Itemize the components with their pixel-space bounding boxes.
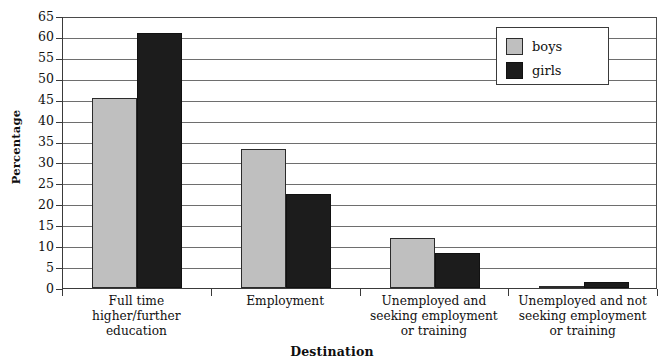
x-axis-category-label: Unemployed and notseeking employmentor t… xyxy=(500,294,664,339)
y-axis-tick-label: 50 xyxy=(14,73,54,86)
chart-title-remnant xyxy=(0,0,664,6)
legend-item-girls: girls xyxy=(506,58,608,82)
category-label-line: education xyxy=(54,324,219,339)
legend-swatch-girls xyxy=(506,62,523,79)
bar-girls-2 xyxy=(286,194,331,288)
y-axis-tick-label: 0 xyxy=(14,283,54,296)
bar-boys-4 xyxy=(539,286,584,289)
legend-label-boys: boys xyxy=(532,40,562,53)
legend-swatch-boys xyxy=(506,38,523,55)
y-axis-tick-label: 5 xyxy=(14,262,54,275)
y-axis-tick-label: 10 xyxy=(14,241,54,254)
y-axis-tick-label: 20 xyxy=(14,199,54,212)
category-label-line: higher/further xyxy=(54,309,219,324)
category-label-line: seeking employment xyxy=(352,309,517,324)
category-label-line: or training xyxy=(352,324,517,339)
category-label-line: Unemployed and xyxy=(352,294,517,309)
y-axis-tick-label: 60 xyxy=(14,31,54,44)
x-axis-title: Destination xyxy=(0,344,664,359)
y-axis-tick-label: 65 xyxy=(14,11,54,24)
category-label-line: seeking employment xyxy=(500,309,664,324)
category-label-line: or training xyxy=(500,324,664,339)
y-axis-tick-label: 40 xyxy=(14,115,54,128)
x-axis-category-label: Full timehigher/furthereducation xyxy=(54,294,219,339)
y-axis-tick-label: 35 xyxy=(14,136,54,149)
x-axis-category-label: Employment xyxy=(203,294,368,309)
y-axis-tick-label: 55 xyxy=(14,52,54,65)
legend: boys girls xyxy=(496,27,609,85)
legend-label-girls: girls xyxy=(532,64,562,77)
category-label-line: Unemployed and not xyxy=(500,294,664,309)
bar-girls-3 xyxy=(435,253,480,288)
bar-girls-1 xyxy=(137,33,182,288)
bar-boys-2 xyxy=(241,149,286,288)
legend-item-boys: boys xyxy=(506,34,608,58)
x-axis-category-label: Unemployed andseeking employmentor train… xyxy=(352,294,517,339)
bar-boys-1 xyxy=(92,98,137,288)
bar-boys-3 xyxy=(390,238,435,288)
category-label-line: Employment xyxy=(203,294,368,309)
y-axis-tick-label: 25 xyxy=(14,178,54,191)
bar-chart: Percentage 05101520253035404550556065 Fu… xyxy=(0,0,664,363)
y-axis-tick-label: 45 xyxy=(14,94,54,107)
category-label-line: Full time xyxy=(54,294,219,309)
y-axis-tick-label: 15 xyxy=(14,220,54,233)
y-axis-tick-label: 30 xyxy=(14,157,54,170)
bar-girls-4 xyxy=(584,282,629,288)
